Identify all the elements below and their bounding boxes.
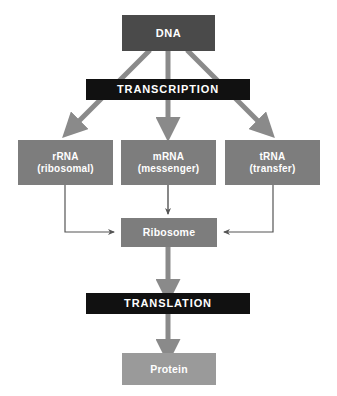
- edge-trna-to-ribosome: [224, 185, 273, 232]
- node-protein-label: Protein: [150, 363, 188, 375]
- node-protein: Protein: [122, 353, 216, 385]
- node-dna-label: DNA: [156, 27, 182, 40]
- node-rrna-label-primary: rRNA: [52, 151, 78, 163]
- node-rrna: rRNA (ribosomal): [18, 140, 113, 185]
- node-mrna-label-secondary: (messenger): [138, 163, 200, 175]
- node-ribosome-label: Ribosome: [143, 226, 195, 238]
- central-dogma-diagram: DNA TRANSCRIPTION rRNA (ribosomal) mRNA …: [0, 0, 337, 396]
- node-trna-label-secondary: (transfer): [250, 163, 296, 175]
- node-transcription-label: TRANSCRIPTION: [117, 83, 219, 96]
- flow-connectors: [0, 0, 337, 396]
- node-mrna-label-primary: mRNA: [153, 151, 184, 163]
- node-trna: tRNA (transfer): [225, 140, 320, 185]
- edge-rrna-to-ribosome: [65, 185, 114, 232]
- node-rrna-label-secondary: (ribosomal): [37, 163, 94, 175]
- node-trna-label-primary: tRNA: [260, 151, 286, 163]
- node-mrna: mRNA (messenger): [121, 140, 216, 185]
- node-ribosome: Ribosome: [121, 218, 217, 247]
- node-transcription: TRANSCRIPTION: [86, 79, 250, 100]
- node-translation: TRANSLATION: [86, 293, 250, 314]
- node-translation-label: TRANSLATION: [124, 297, 212, 310]
- node-dna: DNA: [122, 15, 215, 51]
